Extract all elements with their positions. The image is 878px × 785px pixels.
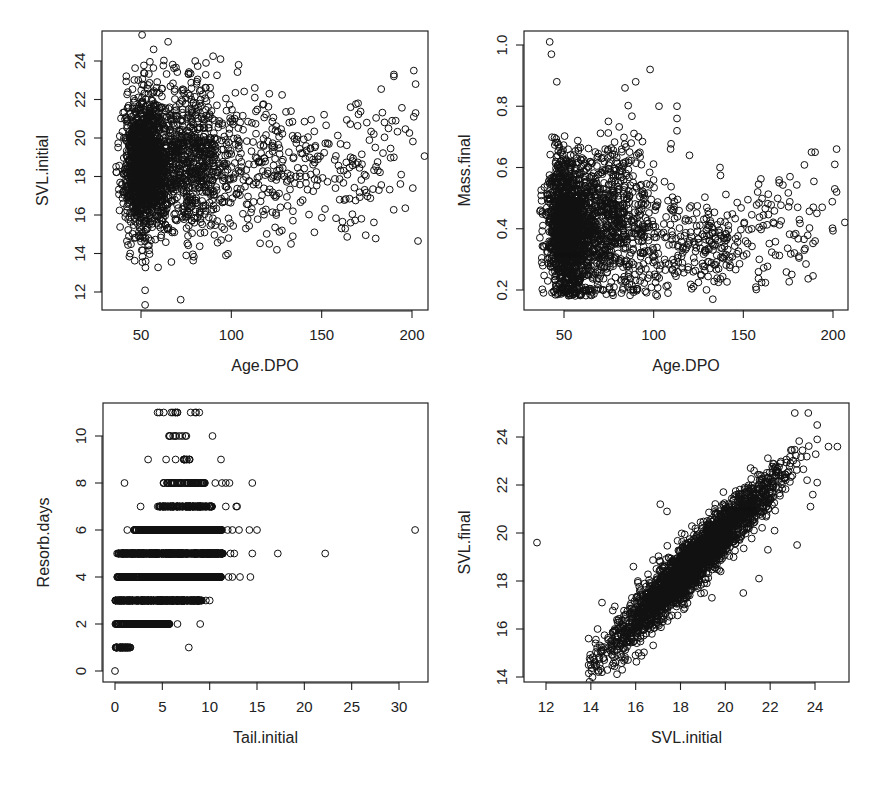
y-tick-label: 0.8 [493, 96, 510, 117]
y-tick-label: 14 [493, 669, 510, 686]
y-axis-label: Resorb.days [35, 498, 52, 588]
x-tick-label: 30 [391, 698, 408, 715]
plot-frame [103, 403, 428, 682]
x-tick-label: 200 [820, 326, 845, 343]
x-tick-label: 150 [731, 326, 756, 343]
x-axis-label: Age.DPO [652, 357, 720, 374]
y-tick-label: 18 [71, 168, 88, 185]
y-tick-label: 1.0 [493, 35, 510, 56]
x-axis-p1: 50100150200Age.DPO [133, 310, 425, 374]
x-tick-label: 22 [762, 698, 779, 715]
y-tick-label: 20 [71, 130, 88, 147]
x-tick-label: 18 [672, 698, 689, 715]
x-axis-label: SVL.initial [651, 729, 722, 746]
points-p1 [113, 32, 428, 309]
y-tick-label: 18 [493, 573, 510, 590]
x-tick-label: 50 [556, 326, 573, 343]
panel-p1: 50100150200Age.DPO12141618202224SVL.init… [34, 31, 429, 374]
y-tick-label: 16 [493, 621, 510, 638]
y-axis-label: SVL.final [456, 510, 473, 574]
y-tick-label: 22 [493, 477, 510, 494]
y-tick-label: 16 [71, 207, 88, 224]
x-tick-label: 100 [641, 326, 666, 343]
points-p4 [534, 410, 841, 685]
x-tick-label: 150 [309, 326, 334, 343]
scatterplot-matrix: 50100150200Age.DPO12141618202224SVL.init… [0, 0, 878, 785]
y-tick-label: 2 [72, 620, 89, 628]
x-tick-label: 20 [296, 698, 313, 715]
x-tick-label: 20 [717, 698, 734, 715]
y-tick-label: 4 [72, 573, 89, 581]
x-tick-label: 0 [111, 698, 119, 715]
y-tick-label: 0.2 [493, 280, 510, 301]
panel-p3: 051015202530Tail.initial0246810Resorb.da… [35, 403, 429, 746]
y-axis-label: Mass.final [456, 134, 473, 206]
x-tick-label: 16 [627, 698, 644, 715]
x-tick-label: 15 [249, 698, 266, 715]
x-tick-label: 24 [807, 698, 824, 715]
y-tick-label: 14 [71, 245, 88, 262]
y-tick-label: 0 [72, 667, 89, 675]
points-p2 [537, 39, 849, 303]
points-p3 [112, 409, 419, 674]
y-tick-label: 10 [72, 428, 89, 445]
x-axis-label: Tail.initial [233, 729, 298, 746]
y-tick-label: 0.6 [493, 157, 510, 178]
panel-p4: 12141618202224SVL.initial141618202224SVL… [456, 403, 850, 746]
y-axis-p2: 0.20.40.60.81.0Mass.final [456, 35, 525, 301]
x-tick-label: 12 [538, 698, 555, 715]
y-tick-label: 24 [71, 53, 88, 70]
x-tick-label: 5 [158, 698, 166, 715]
x-tick-label: 50 [133, 326, 150, 343]
x-axis-label: Age.DPO [231, 357, 299, 374]
x-axis-p3: 051015202530Tail.initial [111, 682, 408, 746]
y-axis-label: SVL.initial [34, 135, 51, 206]
y-tick-label: 24 [493, 429, 510, 446]
panel-p2: 50100150200Age.DPO0.20.40.60.81.0Mass.fi… [456, 31, 849, 374]
y-tick-label: 20 [493, 525, 510, 542]
x-tick-label: 100 [219, 326, 244, 343]
y-axis-p1: 12141618202224SVL.initial [34, 53, 103, 301]
x-axis-p4: 12141618202224SVL.initial [538, 682, 824, 746]
x-tick-label: 200 [399, 326, 424, 343]
y-tick-label: 8 [72, 479, 89, 487]
y-tick-label: 6 [72, 526, 89, 534]
y-tick-label: 0.4 [493, 218, 510, 239]
y-axis-p4: 141618202224SVL.final [456, 429, 525, 686]
x-tick-label: 10 [201, 698, 218, 715]
x-tick-label: 14 [582, 698, 599, 715]
x-tick-label: 25 [343, 698, 360, 715]
x-axis-p2: 50100150200Age.DPO [556, 310, 846, 374]
y-axis-p3: 0246810Resorb.days [35, 428, 104, 676]
y-tick-label: 12 [71, 284, 88, 301]
y-tick-label: 22 [71, 91, 88, 108]
